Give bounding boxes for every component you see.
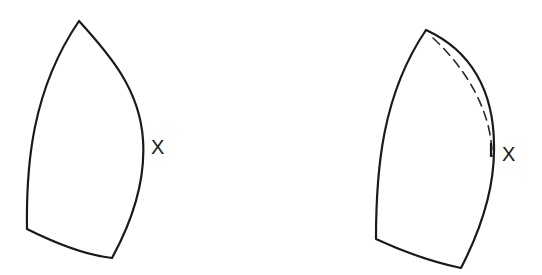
right-shape-outline xyxy=(376,30,494,268)
right-shape xyxy=(376,30,494,268)
left-shape xyxy=(27,21,143,258)
left-shape-outline xyxy=(27,21,143,258)
diagram-canvas xyxy=(0,0,542,275)
left-point-label: X xyxy=(151,137,164,157)
right-point-label: X xyxy=(502,144,515,164)
